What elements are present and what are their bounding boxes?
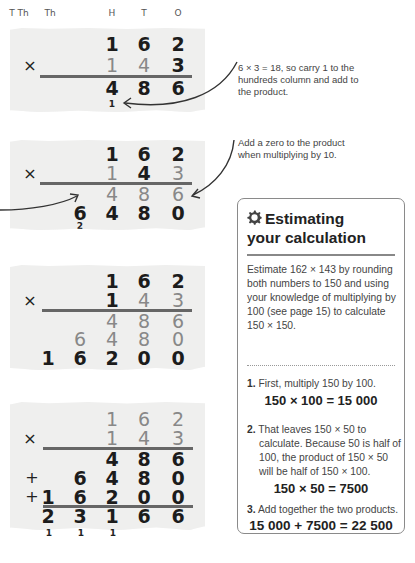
step-1: 1. First, multiply 150 by 100. [247,377,399,391]
carry-digit: 1 [109,99,115,109]
step3-panel: 1 6 2 × 1 4 3 4 8 6 6 4 8 0 1 6 2 0 0 [10,265,205,370]
digit: 4 [105,77,118,99]
digit: 4 [138,54,150,76]
carry-digit: 1 [110,528,116,538]
step-number: 1. [247,378,256,389]
digit: 6 [171,77,184,99]
header-hundreds: H [109,8,116,18]
partial-product-row: 6 4 8 0 [10,202,205,224]
digit: 6 [137,33,150,55]
digit: 1 [105,505,118,527]
multiplicand-row: 1 6 2 [10,33,205,55]
times-sign: × [23,56,36,75]
step2-panel: 1 6 2 × 1 4 3 4 8 6 6 4 8 0 2 [10,140,205,230]
digit: 4 [105,202,118,224]
plus-sign: + [25,487,38,506]
step-3: 3. Add together the two products. [247,503,399,517]
digit: 0 [171,202,184,224]
digit: 6 [171,505,184,527]
header-thousands: Th [44,8,55,18]
step1-note: 6 × 3 = 18, so carry 1 to the hundreds c… [238,62,368,98]
digit: 0 [171,347,184,369]
step4-panel: 1 6 2 × 1 4 3 4 8 6 + 6 4 8 0 + 1 6 2 0 … [10,402,205,530]
digit: 1 [106,427,118,449]
digit: 1 [106,162,118,184]
digit: 8 [137,202,150,224]
multiplier-row: × 1 4 3 [10,162,205,184]
digit: 4 [137,162,150,184]
digit: 0 [137,347,150,369]
step-number: 2. [247,424,256,435]
digit: 8 [137,77,150,99]
total-row: 2 3 1 6 6 [10,505,205,527]
digit: 3 [172,427,184,449]
plus-sign: + [25,468,38,487]
dotted-divider [247,365,395,366]
digit: 2 [105,347,118,369]
times-sign: × [23,164,36,183]
title-line2: your calculation [247,229,366,246]
digit: 1 [106,54,118,76]
digit: 1 [41,347,54,369]
gear-icon [247,210,262,225]
step-text: First, multiply 150 by 100. [258,378,375,389]
multiplier-row: × 1 4 3 [10,289,205,311]
header-ones: O [174,8,181,18]
header-ten-thousands: T Th [9,8,29,18]
header-tens: T [141,8,147,18]
times-sign: × [23,291,36,310]
digit: 2 [41,505,54,527]
digit: 2 [171,33,184,55]
times-sign: × [23,429,36,448]
equation-1: 150 × 100 = 15 000 [238,393,404,408]
digit: 3 [171,54,184,76]
equation-3: 15 000 + 7500 = 22 500 [238,518,404,533]
digit: 3 [172,289,184,311]
step-number: 3. [247,504,256,515]
digit: 3 [73,505,86,527]
multiplier-row: × 1 4 3 [10,427,205,449]
intro-text: Estimate 162 × 143 by rounding both numb… [247,263,399,333]
step-text: Add together the two products. [258,504,398,515]
partial-product-row: 1 6 2 0 0 [10,347,205,369]
step-2: 2. That leaves 150 × 50 to calculate. Be… [247,423,401,479]
digit: 4 [138,427,150,449]
box-title: Estimating your calculation [247,209,397,247]
digit: 1 [105,289,118,311]
digit: 1 [105,33,118,55]
estimating-box: Estimating your calculation Estimate 162… [237,198,405,534]
carry-digit: 1 [46,528,52,538]
digit: 4 [138,289,150,311]
product-row: 4 8 6 [10,77,205,99]
step2-note: Add a zero to the product when multiplyi… [238,137,348,161]
title-divider [247,254,395,256]
carry-digit: 2 [77,221,83,231]
title-line1: Estimating [265,210,344,227]
digit: 6 [73,347,86,369]
multiplier-row: × 1 4 3 [10,54,205,76]
digit: 3 [172,162,184,184]
digit: 6 [137,505,150,527]
equation-2: 150 × 50 = 7500 [238,481,404,496]
place-value-headers: T Th Th H T O [0,8,240,22]
step-text: That leaves 150 × 50 to calculate. Becau… [258,424,401,477]
step1-panel: 1 6 2 × 1 4 3 4 8 6 1 [10,28,205,112]
carry-digit: 1 [78,528,84,538]
